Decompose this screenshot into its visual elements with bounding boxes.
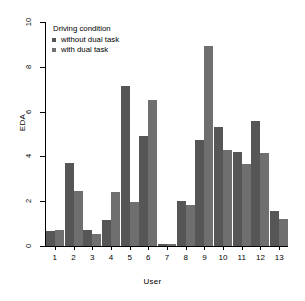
x-tick-mark [186,246,187,250]
bar [279,219,288,246]
legend-label: with dual task [61,46,108,54]
x-axis-label: User [0,277,305,286]
y-tick-label-wrap: 6 [18,107,40,117]
y-tick-label: 4 [24,145,34,167]
bar [251,121,260,246]
bar [195,140,204,246]
x-tick-label: 2 [64,253,84,262]
y-tick-label-wrap: 2 [18,196,40,206]
bar-group [83,22,101,246]
bar [65,163,74,246]
bar-group [139,22,157,246]
bar-group [195,22,213,246]
bar [46,231,55,246]
x-tick-mark [130,246,131,250]
x-tick-label: 3 [82,253,102,262]
y-tick-label: 8 [24,56,34,78]
y-tick-label-wrap: 10 [18,17,40,27]
bar [148,100,157,246]
bar-group [65,22,83,246]
x-tick-label: 6 [138,253,158,262]
x-tick-mark [242,246,243,250]
bar [83,230,92,246]
bar [74,191,83,246]
bar-group [46,22,64,246]
bar [242,164,251,246]
bar-group [158,22,176,246]
x-tick-label: 12 [250,253,270,262]
y-tick-mark [40,246,45,247]
bar [158,244,167,246]
x-tick-mark [279,246,280,250]
bar [204,46,213,246]
y-tick-label: 10 [24,11,34,33]
legend: Driving condition without dual task with… [52,24,119,56]
bar [233,152,242,246]
bar [260,153,269,246]
x-tick-mark [74,246,75,250]
bar [214,127,223,246]
legend-swatch-icon [52,38,56,42]
plot-area [45,22,288,246]
bar [130,202,139,246]
bar [55,230,64,246]
y-tick-label: 2 [24,190,34,212]
x-tick-label: 9 [194,253,214,262]
bar [102,220,111,246]
x-tick-label: 7 [157,253,177,262]
x-tick-label: 10 [213,253,233,262]
legend-label: without dual task [61,36,119,44]
x-tick-label: 4 [101,253,121,262]
x-tick-mark [148,246,149,250]
bar [270,211,279,246]
bar [139,136,148,246]
bar-group [121,22,139,246]
bar-group [102,22,120,246]
eda-bar-chart: EDA User 0246810 12345678910111213 Drivi… [0,0,305,301]
bar [177,201,186,246]
bar-group [233,22,251,246]
x-tick-label: 1 [45,253,65,262]
x-tick-mark [111,246,112,250]
y-tick-label-wrap: 4 [18,151,40,161]
x-tick-label: 11 [232,253,252,262]
x-tick-mark [260,246,261,250]
x-tick-mark [204,246,205,250]
x-tick-mark [167,246,168,250]
x-tick-mark [55,246,56,250]
bar [223,150,232,246]
legend-title: Driving condition [52,24,119,33]
y-tick-label-wrap: 8 [18,62,40,72]
bar-group [251,22,269,246]
legend-item-without-dual-task: without dual task [52,36,119,44]
x-tick-mark [223,246,224,250]
y-tick-label-wrap: 0 [18,241,40,251]
x-tick-label: 13 [269,253,289,262]
bar [121,86,130,246]
bar [111,192,120,246]
bar [167,244,176,246]
bar [186,205,195,246]
bar-group [214,22,232,246]
legend-swatch-icon [52,48,56,52]
x-tick-mark [92,246,93,250]
y-tick-label: 0 [24,235,34,257]
x-tick-label: 5 [120,253,140,262]
y-tick-label: 6 [24,101,34,123]
bar [92,234,101,246]
x-tick-label: 8 [176,253,196,262]
bar-group [177,22,195,246]
bar-group [270,22,288,246]
legend-item-with-dual-task: with dual task [52,46,119,54]
